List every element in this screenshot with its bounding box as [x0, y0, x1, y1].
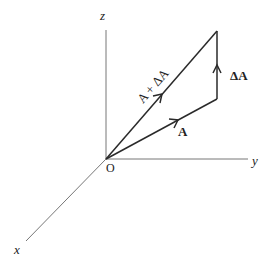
x-axis — [26, 159, 106, 241]
vector-A — [106, 99, 217, 159]
origin-label: O — [106, 161, 115, 175]
x-axis-label: x — [13, 242, 20, 257]
z-axis-label: z — [99, 8, 105, 23]
vector-sum-label: A + ΔA — [134, 65, 172, 106]
vector-A-label: A — [178, 124, 188, 139]
vectors — [106, 31, 221, 159]
vector-addition-diagram: z y x O A ΔA A + ΔA — [0, 0, 273, 264]
vector-delta-A-label: ΔA — [230, 68, 248, 83]
y-axis-label: y — [250, 153, 258, 168]
axes — [26, 30, 248, 241]
